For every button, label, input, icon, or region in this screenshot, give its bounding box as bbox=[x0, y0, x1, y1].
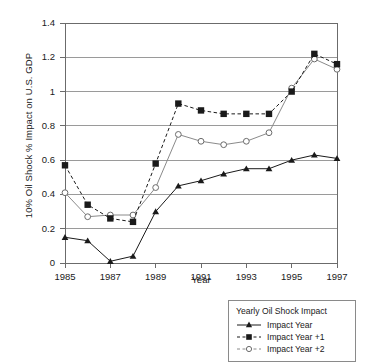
legend-item-impact-year: Impact Year bbox=[236, 319, 348, 331]
series-impact-year-2 bbox=[62, 56, 340, 220]
legend-label-impact-year-plus-2: Impact Year +2 bbox=[262, 344, 325, 354]
chart-legend: Yearly Oil Shock Impact Impact Year Impa… bbox=[228, 300, 356, 362]
legend-key-triangle-icon bbox=[236, 319, 262, 331]
series-impact-year-1 bbox=[62, 51, 340, 225]
legend-item-impact-year-plus-1: Impact Year +1 bbox=[236, 331, 348, 343]
chart-figure: 10% Oil Shock % Impact on U.S. GDP Year … bbox=[0, 0, 385, 363]
legend-key-square-icon bbox=[236, 331, 262, 343]
legend-item-impact-year-plus-2: Impact Year +2 bbox=[236, 343, 348, 355]
legend-key-circle-icon bbox=[236, 343, 262, 355]
legend-label-impact-year: Impact Year bbox=[262, 320, 312, 330]
legend-label-impact-year-plus-1: Impact Year +1 bbox=[262, 332, 325, 342]
legend-title: Yearly Oil Shock Impact bbox=[236, 306, 348, 316]
series-impact-year bbox=[62, 152, 341, 264]
